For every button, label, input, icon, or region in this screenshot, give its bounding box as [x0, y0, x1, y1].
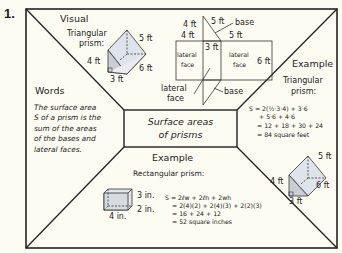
net-base-bottom: base — [224, 87, 243, 96]
net-lateral-right-1: lateral — [229, 50, 249, 59]
center-title: Surface areas of prisms — [124, 115, 237, 141]
example-right-line-2: + 5·6 + 4·6 — [259, 112, 295, 121]
visual-dim-6ft: 6 ft — [139, 64, 152, 73]
net-right-top: 5 ft — [229, 31, 242, 40]
example-right-heading: Example — [292, 58, 333, 69]
rect-dim-length: 4 in. — [109, 212, 126, 221]
example-right-dim-3ft: 3 ft — [289, 197, 302, 206]
problem-number: 1. — [4, 6, 15, 21]
visual-dim-5ft: 5 ft — [139, 34, 152, 43]
net-left-top-2: 4 ft — [181, 31, 194, 40]
net-left-top: 4 ft — [183, 20, 196, 29]
visual-heading: Visual — [60, 13, 88, 24]
example-right-sub-2: prism: — [291, 87, 316, 96]
visual-dim-4ft: 4 ft — [87, 57, 100, 66]
visual-prism-label-2: prism: — [79, 39, 104, 48]
visual-prism-label-1: Triangular — [67, 29, 107, 38]
net-lateral-left-2: face — [181, 60, 194, 69]
example-right-line-4: = 84 square feet — [257, 130, 309, 139]
example-right-dim-5ft: 5 ft — [318, 152, 331, 161]
visual-dim-3ft: 3 ft — [110, 75, 123, 84]
words-definition: The surface area S of a prism is the sum… — [34, 103, 101, 155]
net-pointer-lateral-1: lateral — [161, 84, 187, 93]
example-right-dim-4ft: 4 ft — [270, 177, 283, 186]
example-bottom-sub: Rectangular prism: — [133, 169, 204, 178]
net-top-slant: 5 ft — [211, 17, 224, 26]
example-right-dim-6ft: 6 ft — [316, 181, 329, 190]
net-pointer-lateral-2: face — [167, 94, 184, 103]
net-base-top: base — [235, 18, 254, 27]
net-lateral-right-2: face — [233, 60, 246, 69]
example-bottom-heading: Example — [152, 152, 193, 163]
net-right-side: 6 ft — [257, 57, 270, 66]
example-right-line-3: = 12 + 18 + 30 + 24 — [257, 121, 323, 130]
triangular-prism-example — [289, 156, 326, 196]
net-middle: 3 ft — [205, 43, 218, 52]
rect-dim-width: 2 in. — [137, 205, 154, 214]
example-right-sub-1: Triangular — [283, 76, 323, 85]
rectangular-prism — [104, 189, 132, 210]
rect-dim-height: 3 in. — [137, 191, 154, 200]
example-bottom-line-4: = 52 square inches — [172, 217, 232, 226]
words-heading: Words — [35, 85, 64, 96]
net-lateral-left-1: lateral — [177, 50, 197, 59]
